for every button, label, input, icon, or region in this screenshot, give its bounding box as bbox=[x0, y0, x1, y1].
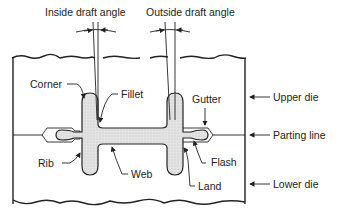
label-gutter: Gutter bbox=[192, 93, 222, 105]
label-lower-die: Lower die bbox=[273, 178, 319, 190]
label-web: Web bbox=[131, 168, 153, 180]
label-rib: Rib bbox=[38, 157, 54, 169]
label-flash: Flash bbox=[211, 156, 237, 168]
label-inside-draft-angle: Inside draft angle bbox=[45, 6, 126, 18]
label-parting-line: Parting line bbox=[273, 129, 326, 141]
label-outside-draft-angle: Outside draft angle bbox=[146, 6, 235, 18]
label-land: Land bbox=[198, 180, 222, 192]
label-corner: Corner bbox=[30, 78, 63, 90]
forging-die-diagram: Inside draft angle Outside draft angle C… bbox=[0, 0, 338, 224]
diagram-canvas: Inside draft angle Outside draft angle C… bbox=[0, 0, 338, 224]
label-upper-die: Upper die bbox=[273, 91, 319, 103]
label-fillet: Fillet bbox=[121, 88, 143, 100]
